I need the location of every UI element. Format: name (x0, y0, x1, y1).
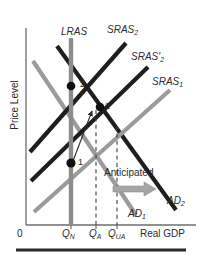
point-1-dot (66, 158, 75, 167)
curve-label-sras-prime-2: SRAS'2 (131, 52, 164, 64)
y-axis-label: Price Level (10, 70, 20, 140)
point-2-dot (67, 82, 76, 91)
curve-label-sras2: SRAS2 (107, 25, 138, 37)
curve-label-lras: LRAS (61, 27, 87, 39)
x-axis-label: Real GDP (140, 229, 185, 239)
curve-label-sras1: SRAS1 (152, 77, 183, 89)
axis-origin-label: 0 (17, 229, 23, 239)
point-label-1: 1 (78, 158, 83, 167)
point-2p-dot (96, 103, 105, 112)
diagram-canvas (0, 0, 201, 259)
x-tick-label-qua: QUA (108, 229, 125, 241)
point-label-2-prime: 2' (105, 102, 112, 111)
x-tick-label-qn: QN (62, 229, 75, 241)
curve-label-ad1: AD1 (128, 209, 146, 221)
annotation-anticipated: Anticipated (104, 168, 153, 178)
x-tick-label-qa: QA (89, 229, 101, 241)
point-label-2: 2 (80, 80, 85, 89)
curve-label-ad2: AD2 (167, 196, 185, 208)
as-ad-diagram: LRAS SRAS2 SRAS'2 SRAS1 AD1 AD2 2 2' 1 A… (0, 0, 201, 259)
